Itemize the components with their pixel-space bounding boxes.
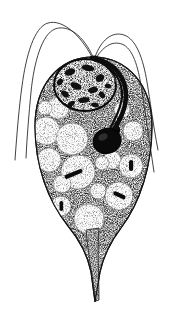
food-vacuole-group [30,90,160,250]
protozoan-illustration [0,0,186,321]
vacuole-grain [30,90,160,250]
basal-body [90,56,99,61]
figure-canvas: flagellate protozoan cell nucleus axosty… [0,0,186,321]
